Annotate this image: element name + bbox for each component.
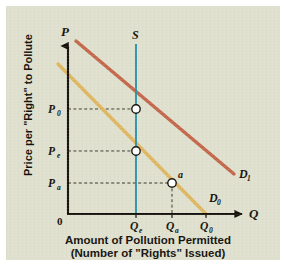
y-tick-p0-sub: 0 [57,109,61,118]
y-tick-pa-base: P [48,177,56,189]
demand-curve-high-label: D 1 [238,167,251,183]
y-axis-title: Price per "Right" to Pollute [22,34,34,176]
x-tick-label-qe: Q e [130,220,143,235]
y-tick-label-pa: P a [48,177,61,192]
y-tick-pe-base: P [48,145,56,157]
origin-label: 0 [57,215,63,227]
point-a-marker [168,179,176,187]
x-tick-qa-base: Q [166,220,174,232]
chart-plate: P Q 0 P 0 P e P a Q e Q a [6,6,280,260]
demand-d1-sub: 1 [247,174,251,183]
demand-d0-sub: 0 [217,198,221,207]
equilibrium-point-d1 [132,105,140,113]
y-tick-label-p0: P 0 [48,103,61,118]
x-tick-q0-base: Q [200,220,208,232]
y-tick-pe-sub: e [57,151,61,160]
x-axis-caption-line1: Amount of Pollution Permitted [65,234,231,246]
demand-curve-low-label: D 0 [208,191,221,207]
economics-chart: P Q 0 P 0 P e P a Q e Q a [6,6,280,260]
supply-curve-label: S [132,28,139,42]
x-axis-caption-line2: (Number of "Rights" Issued) [71,247,226,259]
x-tick-qe-base: Q [130,220,138,232]
x-axis-symbol: Q [249,206,259,221]
y-tick-p0-base: P [48,103,56,115]
equilibrium-point-d0 [132,147,140,155]
x-tick-label-qa: Q a [166,220,179,235]
y-tick-label-pe: P e [48,145,61,160]
point-a-label: a [178,169,183,180]
x-tick-label-q0: Q 0 [200,220,213,235]
y-tick-pa-sub: a [57,183,61,192]
figure-container: P Q 0 P 0 P e P a Q e Q a [0,0,286,266]
y-axis-symbol: P [61,24,70,39]
